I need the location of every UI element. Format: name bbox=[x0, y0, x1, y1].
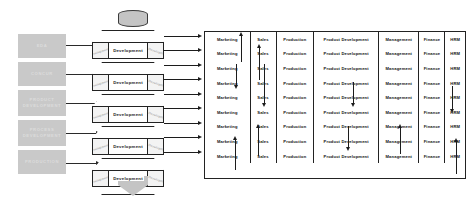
prism-right-face: Development bbox=[147, 107, 163, 122]
prism-label: Development bbox=[112, 80, 144, 85]
prism-right-face: Development bbox=[147, 171, 163, 186]
cell-production: Production bbox=[277, 105, 315, 120]
cell-management: Management bbox=[379, 61, 419, 76]
prism-front-face: Development Development Development bbox=[92, 138, 164, 155]
table-row[interactable]: Marketing Sales Production Product Devel… bbox=[205, 120, 465, 135]
cell-finance: Finance bbox=[419, 47, 445, 62]
cell-marketing: Marketing bbox=[205, 47, 251, 62]
prism-left-face: Development bbox=[93, 171, 109, 186]
prism-to-matrix-line bbox=[164, 65, 200, 66]
flow-arrow-production-up bbox=[259, 48, 260, 80]
prism-left-face: Development bbox=[93, 139, 109, 154]
cell-product-development: Product Development bbox=[314, 61, 379, 76]
development-prism-3[interactable]: Development Development Development bbox=[92, 94, 164, 130]
table-row[interactable]: Marketing Sales Production Product Devel… bbox=[205, 134, 465, 149]
stage-block-product-development[interactable]: PRODUCT DEVELOPMENT bbox=[18, 90, 66, 116]
flow-arrow-head-up bbox=[454, 138, 458, 142]
prism-left-face: Development bbox=[93, 75, 109, 90]
cell-marketing: Marketing bbox=[205, 105, 251, 120]
cell-hrm: HRM bbox=[445, 90, 465, 105]
flow-arrow-production-down bbox=[264, 64, 265, 104]
cell-finance: Finance bbox=[419, 149, 445, 164]
flow-arrow-head-down bbox=[346, 147, 350, 151]
table-row[interactable]: Marketing Sales Production Product Devel… bbox=[205, 32, 465, 47]
input-cylinder-icon bbox=[118, 10, 148, 27]
prism-left-face: Development bbox=[93, 43, 109, 58]
cell-production: Production bbox=[277, 149, 315, 164]
cell-sales: Sales bbox=[251, 149, 277, 164]
stage-block-process-development[interactable]: PROCESS DEVELOPMENT bbox=[18, 120, 66, 146]
cell-marketing: Marketing bbox=[205, 120, 251, 135]
stage-block-eda[interactable]: EDA bbox=[18, 34, 66, 58]
prism-to-matrix-arrow bbox=[198, 121, 202, 125]
prism-side-label: Development bbox=[148, 111, 163, 121]
flow-arrow-hrm-up bbox=[456, 142, 457, 174]
table-row[interactable]: Marketing Sales Production Product Devel… bbox=[205, 76, 465, 91]
table-row[interactable]: Marketing Sales Production Product Devel… bbox=[205, 105, 465, 120]
cell-marketing: Marketing bbox=[205, 61, 251, 76]
cell-sales: Sales bbox=[251, 134, 277, 149]
cell-hrm: HRM bbox=[445, 120, 465, 135]
flow-arrow-sales-up bbox=[241, 36, 242, 62]
function-matrix: Marketing Sales Production Product Devel… bbox=[204, 31, 466, 179]
cell-management: Management bbox=[379, 32, 419, 47]
development-prism-4[interactable]: Development Development Development bbox=[92, 126, 164, 162]
development-prism-stack: Development Development Development Deve… bbox=[92, 14, 164, 196]
cell-product-development: Product Development bbox=[314, 32, 379, 47]
stage-label: CONCUR bbox=[31, 71, 53, 77]
prism-front-face: Development Development Development bbox=[92, 106, 164, 123]
flow-arrow-sales-up-2 bbox=[258, 128, 259, 156]
cell-product-development: Product Development bbox=[314, 76, 379, 91]
flow-arrow-hrm-down bbox=[452, 86, 453, 110]
prism-to-matrix-arrow bbox=[198, 34, 202, 38]
stage-label: EDA bbox=[37, 43, 48, 49]
prism-to-matrix-arrow bbox=[198, 48, 202, 52]
prism-side-label: Development bbox=[148, 175, 163, 185]
prism-right-face: Development bbox=[147, 75, 163, 90]
prism-to-matrix-arrow bbox=[198, 63, 202, 67]
cell-finance: Finance bbox=[419, 120, 445, 135]
prism-side-label: Development bbox=[93, 175, 109, 185]
flow-arrow-head-up bbox=[398, 124, 402, 128]
prism-right-face: Development bbox=[147, 139, 163, 154]
diagram-canvas: EDA CONCUR PRODUCT DEVELOPMENT PROCESS D… bbox=[0, 0, 474, 209]
cell-sales: Sales bbox=[251, 105, 277, 120]
cell-production: Production bbox=[277, 134, 315, 149]
flow-arrow-head-down bbox=[262, 103, 266, 107]
prism-to-matrix-line bbox=[164, 36, 200, 37]
table-row[interactable]: Marketing Sales Production Product Devel… bbox=[205, 47, 465, 62]
prism-to-matrix-line bbox=[164, 137, 200, 138]
cell-management: Management bbox=[379, 76, 419, 91]
flow-arrow-product-development-down bbox=[353, 82, 354, 104]
stage-block-concur[interactable]: CONCUR bbox=[18, 62, 66, 86]
cell-production: Production bbox=[277, 90, 315, 105]
cell-sales: Sales bbox=[251, 120, 277, 135]
cell-finance: Finance bbox=[419, 76, 445, 91]
cell-production: Production bbox=[277, 47, 315, 62]
table-row[interactable]: Marketing Sales Production Product Devel… bbox=[205, 61, 465, 76]
development-prism-1[interactable]: Development Development Development bbox=[92, 30, 164, 66]
cell-marketing: Marketing bbox=[205, 32, 251, 47]
development-prism-2[interactable]: Development Development Development bbox=[92, 62, 164, 98]
cell-product-development: Product Development bbox=[314, 120, 379, 135]
prism-side-label: Development bbox=[93, 79, 109, 89]
prism-to-matrix-arrow bbox=[198, 92, 202, 96]
prism-front-face: Development Development Development bbox=[92, 42, 164, 59]
prism-to-matrix-arrow bbox=[198, 77, 202, 81]
table-row[interactable]: Marketing Sales Production Product Devel… bbox=[205, 149, 465, 164]
cell-marketing: Marketing bbox=[205, 76, 251, 91]
stage-label: PRODUCTION bbox=[25, 159, 59, 165]
flow-arrow-marketing-up bbox=[235, 140, 236, 170]
flow-arrow-head-down bbox=[234, 85, 238, 89]
prism-to-matrix-arrow bbox=[198, 106, 202, 110]
stage-block-production[interactable]: PRODUCTION bbox=[18, 150, 66, 174]
flow-arrow-head-up bbox=[256, 124, 260, 128]
prism-to-matrix-line bbox=[164, 50, 200, 51]
cell-sales: Sales bbox=[251, 32, 277, 47]
stage-label: PRODUCT DEVELOPMENT bbox=[20, 97, 64, 110]
cell-hrm: HRM bbox=[445, 32, 465, 47]
cell-hrm: HRM bbox=[445, 76, 465, 91]
cell-finance: Finance bbox=[419, 32, 445, 47]
table-row[interactable]: Marketing Sales Production Product Devel… bbox=[205, 90, 465, 105]
cell-management: Management bbox=[379, 105, 419, 120]
